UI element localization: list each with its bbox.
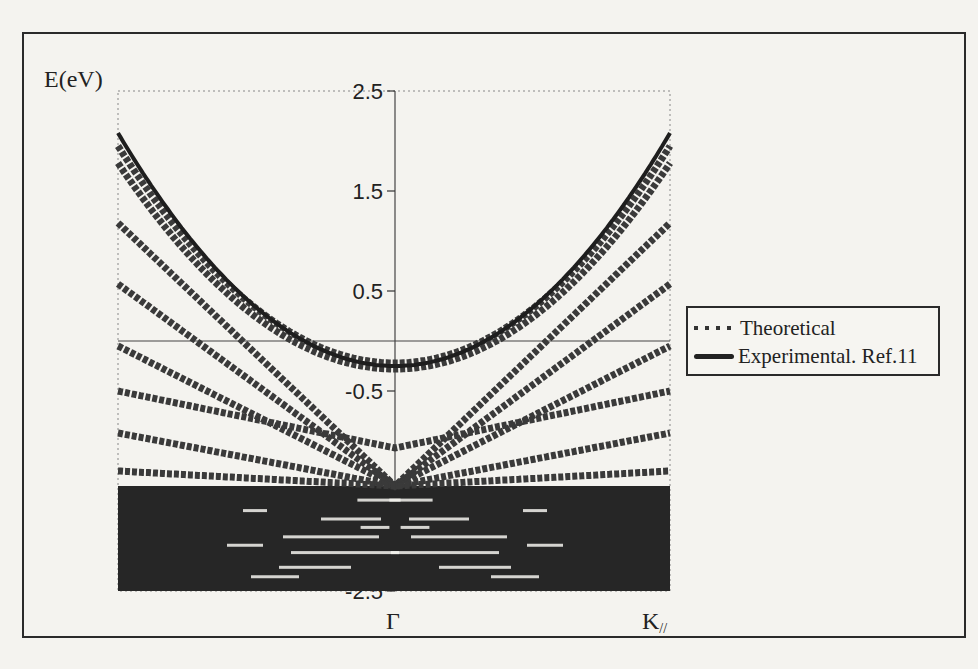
x-label-gamma: Γ — [386, 608, 400, 635]
legend-item-theoretical: Theoretical — [694, 314, 932, 342]
svg-text:1.5: 1.5 — [352, 179, 383, 204]
legend-item-experimental: Experimental. Ref.11 — [694, 342, 932, 370]
dashed-line-icon — [694, 326, 736, 330]
svg-text:-0.5: -0.5 — [345, 379, 383, 404]
legend: Theoretical Experimental. Ref.11 — [686, 306, 940, 376]
svg-text:0.5: 0.5 — [352, 279, 383, 304]
x-label-k-parallel: K// — [642, 608, 667, 637]
solid-line-icon — [694, 354, 734, 359]
svg-text:2.5: 2.5 — [352, 79, 383, 104]
